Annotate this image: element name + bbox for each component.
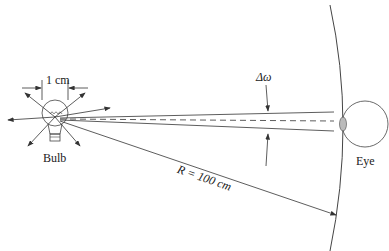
diagram-drawing [0,0,389,251]
delta-omega-label: Δω [256,70,272,85]
eye-label: Eye [356,154,375,169]
width-label: 1 cm [46,73,70,88]
diagram: 1 cm Bulb Eye Δω R = 100 cm [0,0,389,251]
eye-icon [340,101,389,147]
bulb-label: Bulb [43,151,66,166]
